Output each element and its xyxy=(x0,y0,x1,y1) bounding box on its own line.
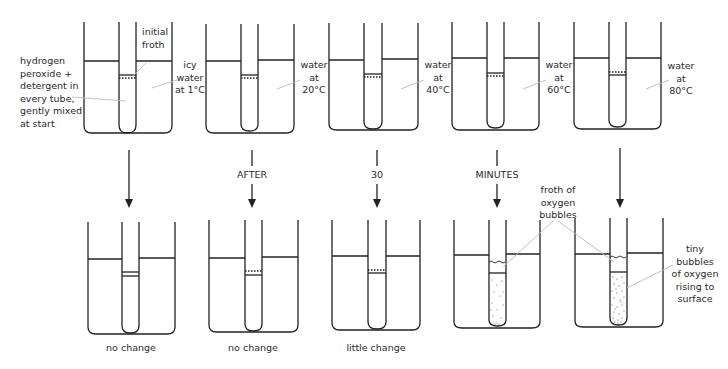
condition-line: icy xyxy=(172,59,208,72)
beaker-20c-after xyxy=(209,220,298,332)
froth-label-line: bubbles xyxy=(532,209,584,222)
initial-froth-label: initial froth xyxy=(142,26,168,51)
condition-line: 60°C xyxy=(541,84,577,97)
start-label: hydrogen peroxide + detergent in every t… xyxy=(20,55,82,130)
beaker-60c xyxy=(452,22,539,130)
condition-line: 40°C xyxy=(420,84,456,97)
condition-line: water xyxy=(420,59,456,72)
beaker-80c xyxy=(574,22,661,129)
start-label-line: hydrogen xyxy=(20,55,82,68)
start-label-line: at start xyxy=(20,118,82,131)
start-label-line: detergent in xyxy=(20,80,82,93)
time-label-30: 30 xyxy=(357,169,397,182)
initial-froth-line: initial xyxy=(142,26,168,39)
condition-60c: water at 60°C xyxy=(541,59,577,97)
start-label-line: every tube, xyxy=(20,93,82,106)
condition-line: water xyxy=(541,59,577,72)
bubbles-label-line: surface xyxy=(664,293,726,306)
diagram-canvas xyxy=(0,0,728,369)
froth-label-line: froth of xyxy=(532,184,584,197)
result-40c: little change xyxy=(326,342,426,355)
start-label-line: gently mixed xyxy=(20,105,82,118)
condition-line: at xyxy=(541,72,577,85)
result-1c: no change xyxy=(91,342,171,355)
bubbles-label-line: of oxygen xyxy=(664,268,726,281)
condition-line: water xyxy=(663,60,699,73)
condition-1c: icy water at 1°C xyxy=(172,59,208,97)
condition-80c: water at 80°C xyxy=(663,60,699,98)
condition-line: at 1°C xyxy=(172,84,208,97)
initial-froth-line: froth xyxy=(142,39,168,52)
condition-40c: water at 40°C xyxy=(420,59,456,97)
condition-line: at xyxy=(420,72,456,85)
condition-line: water xyxy=(296,59,332,72)
condition-line: at xyxy=(296,72,332,85)
time-label-after: AFTER xyxy=(222,169,282,182)
beaker-1c-after xyxy=(88,222,175,334)
bubbles-label-line: rising to xyxy=(664,281,726,294)
bubbles-label-line: bubbles xyxy=(664,256,726,269)
condition-line: 80°C xyxy=(663,85,699,98)
froth-label-line: oxygen xyxy=(532,197,584,210)
beaker-40c-after xyxy=(332,220,420,330)
beaker-60c-after xyxy=(454,220,540,328)
condition-line: 20°C xyxy=(296,84,332,97)
result-20c: no change xyxy=(213,342,293,355)
oxygen-bubbles xyxy=(491,276,625,324)
time-label-minutes: MINUTES xyxy=(462,169,532,182)
beaker-80c-after xyxy=(575,218,663,327)
bubbles-label: tiny bubbles of oxygen rising to surface xyxy=(664,243,726,306)
condition-line: at xyxy=(663,73,699,86)
start-label-line: peroxide + xyxy=(20,68,82,81)
beaker-40c xyxy=(329,23,418,130)
condition-20c: water at 20°C xyxy=(296,59,332,97)
condition-line: water xyxy=(172,72,208,85)
bubbles-label-line: tiny xyxy=(664,243,726,256)
beaker-20c xyxy=(206,24,294,133)
froth-label: froth of oxygen bubbles xyxy=(532,184,584,222)
